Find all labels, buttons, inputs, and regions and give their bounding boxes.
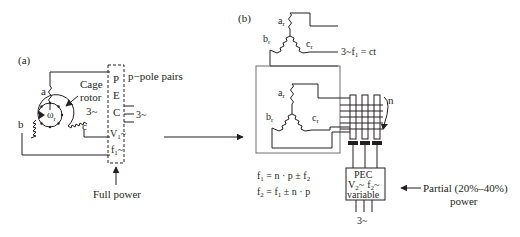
winding-c-label: c bbox=[82, 120, 87, 132]
rotor-winding-a-label: ar bbox=[278, 87, 285, 100]
pec-letter-p: P bbox=[113, 73, 119, 85]
equation-f2: f2 = f1 ± n · p bbox=[257, 186, 310, 199]
top-winding-set: ar br cr 3~f1 = ct bbox=[263, 13, 376, 66]
rotor-label: rotor bbox=[80, 91, 102, 103]
pec-b-variable: variable bbox=[347, 189, 380, 200]
winding-b-label: b bbox=[18, 118, 24, 130]
rotor-winding-b-label: br bbox=[266, 111, 274, 124]
rotor-speed-symbol: ωr bbox=[47, 109, 57, 123]
pec-letter-c: C bbox=[113, 106, 120, 118]
panel-a-label: (a) bbox=[18, 54, 31, 67]
grid-label-b: 3~ bbox=[357, 215, 368, 226]
rotor-frame bbox=[256, 66, 340, 153]
full-power-label: Full power bbox=[93, 188, 141, 200]
cage-label: Cage bbox=[80, 78, 103, 90]
pole-pairs-label: p−pole pairs bbox=[128, 70, 183, 82]
partial-power-label-2: power bbox=[450, 195, 478, 207]
grid-connection-a: 3~ bbox=[124, 106, 147, 122]
top-winding-b-label: br bbox=[263, 33, 271, 46]
rotor-winding-set: ar br cr bbox=[266, 84, 350, 148]
rotor-phase-label: 3~ bbox=[86, 105, 98, 117]
pec-f1-label: f1~ bbox=[111, 144, 124, 157]
partial-power-label: Partial (20%–40%) bbox=[423, 182, 508, 195]
grid-frequency-label: 3~f1 = ct bbox=[341, 46, 376, 59]
figure-canvas: (a) a ωr Cage rotor 3~ b bbox=[0, 0, 520, 237]
winding-a-label: a bbox=[41, 85, 46, 97]
grid-label-a: 3~ bbox=[136, 109, 147, 120]
grid-connection-b: 3~ bbox=[356, 200, 372, 226]
stator-ring bbox=[38, 95, 74, 126]
pec-letter-e: E bbox=[113, 89, 120, 101]
panel-a: (a) a ωr Cage rotor 3~ b bbox=[18, 54, 183, 200]
equation-f1: f1 = n · p ± f2 bbox=[257, 170, 311, 183]
speed-label: n bbox=[388, 94, 394, 106]
top-winding-a-label: ar bbox=[278, 15, 285, 28]
panel-b: (b) ar br cr 3~f1 = ct ar br cr bbox=[238, 12, 508, 226]
winding-c: c bbox=[68, 120, 110, 137]
top-winding-c-label: cr bbox=[306, 38, 313, 51]
rotor-winding-c-label: cr bbox=[312, 112, 319, 125]
panel-b-label: (b) bbox=[238, 12, 251, 25]
rotation-arrow-icon bbox=[39, 111, 45, 119]
